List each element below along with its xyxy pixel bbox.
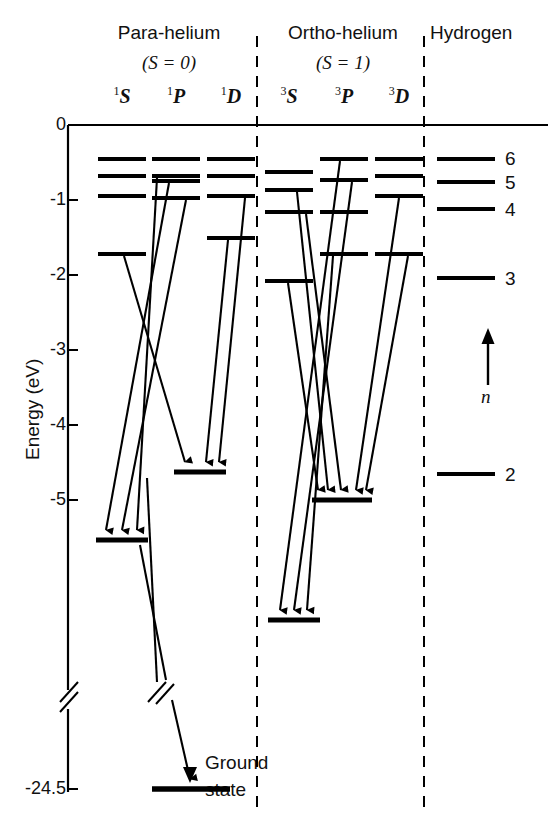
transition-1p3-to-1s2 [122,200,186,530]
ground-state-arrow-tip [183,767,197,783]
transition-1s3-to-1p2 [124,256,185,462]
level-group-para-1d [207,159,255,238]
n-direction-arrow [482,328,495,385]
level-group-hydrogen [437,159,495,474]
energy-level-diagram [0,0,556,824]
transitions-para-helium [106,178,245,779]
axis-break-marks [60,682,174,712]
transition-1p2-to-ground [147,478,157,682]
transition-3p6-to-3s2 [280,161,340,610]
level-group-ortho-3d [375,159,423,254]
transition-1p4-to-1s2 [106,183,169,530]
transition-1d3-to-1p2 [206,240,228,462]
transitions-ortho-helium [280,161,408,610]
